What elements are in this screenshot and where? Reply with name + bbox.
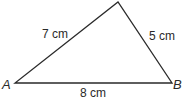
side-label-bc: 5 cm [149, 29, 175, 43]
side-label-ac: 7 cm [42, 27, 68, 41]
vertex-label-b: B [173, 77, 182, 92]
side-label-ab: 8 cm [80, 86, 106, 100]
triangle-diagram: 7 cm 5 cm 8 cm A B [0, 0, 193, 110]
vertex-label-a: A [1, 77, 11, 92]
